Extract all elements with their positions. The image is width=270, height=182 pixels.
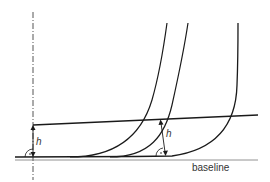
right-angle-dot	[160, 152, 162, 154]
curve-1	[70, 23, 167, 157]
h-label-right: h	[166, 128, 172, 139]
right-angle-dot	[29, 153, 31, 155]
amplification-diagram: h h baseline	[0, 0, 270, 182]
arrowhead-down-icon	[163, 151, 168, 157]
arrowhead-up-icon	[159, 120, 164, 126]
arrowhead-up-icon	[31, 125, 36, 130]
h-label-left: h	[36, 136, 42, 147]
curve-3	[135, 23, 238, 157]
baseline-label: baseline	[192, 162, 230, 173]
right-angle-icon	[156, 148, 163, 156]
curve-2	[110, 23, 188, 157]
